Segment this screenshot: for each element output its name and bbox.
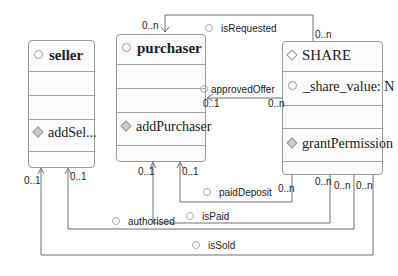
association-icon <box>200 85 208 93</box>
section-divider <box>117 64 205 65</box>
association-icon <box>186 212 194 220</box>
class-header: seller <box>34 47 83 64</box>
association-icon <box>205 24 213 32</box>
multiplicity-authorised-seller: 0..1 <box>70 171 87 182</box>
multiplicity-ispaid-purchaser: 0..1 <box>138 166 155 177</box>
multiplicity-ispaid-share: 0..n <box>315 176 332 187</box>
section-divider <box>117 112 205 113</box>
association-label-approvedoffer[interactable]: approvedOffer <box>200 84 275 95</box>
multiplicity-approvedoffer-purchaser: 0..1 <box>203 98 220 109</box>
section-divider <box>283 105 382 106</box>
class-icon <box>34 50 43 59</box>
association-label-ispaid[interactable]: isPaid <box>186 211 229 222</box>
class-share[interactable]: SHARE _share_value: N grantPermission <box>282 41 383 175</box>
multiplicity-issold-seller: 0..1 <box>24 175 41 186</box>
class-purchaser[interactable]: purchaser addPurchaser <box>116 34 206 162</box>
class-icon <box>286 49 297 60</box>
multiplicity-paiddeposit-share: 0..n <box>278 183 295 194</box>
section-divider <box>29 119 94 120</box>
section-divider <box>283 128 382 129</box>
section-divider <box>283 161 382 162</box>
operation-icon <box>120 120 131 131</box>
multiplicity-authorised-share: 0..n <box>334 180 351 191</box>
section-divider <box>117 88 205 89</box>
association-icon <box>112 217 120 225</box>
class-icon <box>122 43 131 52</box>
class-header: SHARE <box>288 47 351 64</box>
association-icon <box>192 241 200 249</box>
multiplicity-approvedoffer-share: 0..n <box>268 98 285 109</box>
multiplicity-issold-share: 0..n <box>356 180 373 191</box>
operation-row[interactable]: grantPermission <box>288 136 393 152</box>
section-divider <box>29 151 94 152</box>
class-seller[interactable]: seller addSel... <box>28 40 95 168</box>
section-divider <box>283 71 382 72</box>
operation-icon <box>286 137 297 148</box>
operation-icon <box>32 126 43 137</box>
operation-row[interactable]: addSel... <box>34 125 97 141</box>
attribute-row[interactable]: _share_value: N <box>288 79 394 95</box>
section-divider <box>117 145 205 146</box>
association-label-paiddeposit[interactable]: paidDeposit <box>203 187 272 198</box>
association-label-isrequested[interactable]: isRequested <box>205 23 277 34</box>
operation-row[interactable]: addPurchaser <box>122 119 211 135</box>
class-header: purchaser <box>122 40 202 57</box>
association-label-issold[interactable]: isSold <box>192 240 235 251</box>
section-divider <box>29 71 94 72</box>
attribute-icon <box>288 81 297 90</box>
association-icon <box>203 188 211 196</box>
section-divider <box>29 95 94 96</box>
multiplicity-isrequested-purchaser: 0..n <box>142 20 159 31</box>
association-label-authorised[interactable]: authorised <box>112 216 175 227</box>
multiplicity-isrequested-share: 0..n <box>315 29 332 40</box>
multiplicity-paiddeposit-purchaser: 0..1 <box>182 166 199 177</box>
